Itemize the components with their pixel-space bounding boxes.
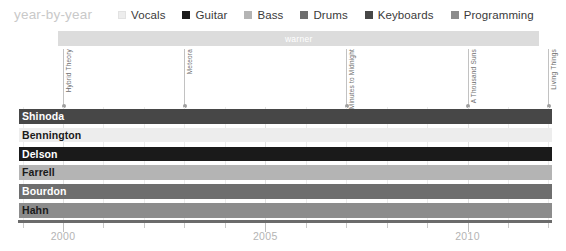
table-row[interactable]: Delson xyxy=(0,145,566,164)
x-axis-tick-minor xyxy=(184,223,185,228)
x-axis-tick-minor xyxy=(144,223,145,228)
member-name-label: Bourdon xyxy=(22,185,66,197)
album-marker-line xyxy=(468,49,469,107)
x-axis-tick-minor xyxy=(508,223,509,228)
x-axis-rule xyxy=(18,220,552,223)
table-row[interactable]: Shinoda xyxy=(0,107,566,126)
legend-item-guitar[interactable]: Guitar xyxy=(182,9,227,21)
album-marker-label: Hybrid Theory xyxy=(65,49,72,92)
member-name-label: Bennington xyxy=(22,129,81,141)
legend-swatch-icon xyxy=(118,11,126,19)
table-row[interactable]: Bennington xyxy=(0,126,566,145)
album-marker-label: Meteora xyxy=(186,49,193,74)
x-axis-tick-minor xyxy=(427,223,428,228)
legend: VocalsGuitarBassDrumsKeyboardsProgrammin… xyxy=(118,9,551,21)
x-axis-tick-label: 2005 xyxy=(253,230,278,242)
legend-item-bass[interactable]: Bass xyxy=(244,9,283,21)
legend-item-label: Drums xyxy=(313,9,347,21)
album-marker[interactable]: Meteora xyxy=(184,49,185,107)
member-activity-bar[interactable] xyxy=(19,128,552,143)
year-by-year-chart: year-by-year VocalsGuitarBassDrumsKeyboa… xyxy=(0,0,566,251)
record-label-band-row: warner xyxy=(0,31,566,46)
member-activity-bar[interactable] xyxy=(19,109,552,124)
legend-swatch-icon xyxy=(300,11,308,19)
album-marker[interactable]: Minutes to Midnight xyxy=(346,49,347,107)
x-axis-tick-minor xyxy=(103,223,104,228)
member-activity-bar[interactable] xyxy=(19,165,552,180)
chart-header: year-by-year VocalsGuitarBassDrumsKeyboa… xyxy=(0,0,566,28)
x-axis-tick-minor xyxy=(548,223,549,228)
plot-area: ShinodaBenningtonDelsonFarrellBourdonHah… xyxy=(0,107,566,220)
member-activity-bar[interactable] xyxy=(19,184,552,199)
table-row[interactable]: Farrell xyxy=(0,163,566,182)
member-activity-bar[interactable] xyxy=(19,147,552,162)
legend-item-keyboards[interactable]: Keyboards xyxy=(365,9,434,21)
table-row[interactable]: Hahn xyxy=(0,201,566,220)
album-markers: Hybrid TheoryMeteoraMinutes to MidnightA… xyxy=(0,49,566,107)
member-name-label: Shinoda xyxy=(22,110,64,122)
legend-item-drums[interactable]: Drums xyxy=(300,9,347,21)
album-marker[interactable]: Living Things xyxy=(548,49,549,107)
album-marker-label: A Thousand Suns xyxy=(470,49,477,103)
table-row[interactable]: Bourdon xyxy=(0,182,566,201)
legend-swatch-icon xyxy=(182,11,190,19)
legend-item-label: Guitar xyxy=(195,9,227,21)
album-marker[interactable]: A Thousand Suns xyxy=(468,49,469,107)
legend-swatch-icon xyxy=(451,11,459,19)
x-axis-tick-minor xyxy=(23,223,24,228)
legend-swatch-icon xyxy=(365,11,373,19)
x-axis-tick-minor xyxy=(387,223,388,228)
record-label-band[interactable]: warner xyxy=(58,31,539,46)
record-label-band-text: warner xyxy=(285,34,313,44)
album-marker-label: Living Things xyxy=(550,49,557,90)
legend-item-label: Bass xyxy=(257,9,283,21)
legend-item-label: Vocals xyxy=(131,9,165,21)
legend-item-programming[interactable]: Programming xyxy=(451,9,534,21)
legend-item-vocals[interactable]: Vocals xyxy=(118,9,165,21)
page-title: year-by-year xyxy=(14,7,92,22)
x-axis: 200020052010 xyxy=(0,220,566,251)
x-axis-tick-minor xyxy=(306,223,307,228)
legend-item-label: Programming xyxy=(464,9,534,21)
member-name-label: Hahn xyxy=(22,204,49,216)
x-axis-tick-label: 2000 xyxy=(51,230,76,242)
member-name-label: Farrell xyxy=(22,166,55,178)
x-axis-tick-minor xyxy=(346,223,347,228)
album-marker-line xyxy=(63,49,64,107)
album-marker[interactable]: Hybrid Theory xyxy=(63,49,64,107)
album-marker-line xyxy=(346,49,347,107)
album-marker-label: Minutes to Midnight xyxy=(348,49,355,109)
legend-swatch-icon xyxy=(244,11,252,19)
legend-item-label: Keyboards xyxy=(378,9,434,21)
member-activity-bar[interactable] xyxy=(19,203,552,218)
x-axis-tick-label: 2010 xyxy=(455,230,480,242)
x-axis-tick-minor xyxy=(225,223,226,228)
member-name-label: Delson xyxy=(22,148,58,160)
